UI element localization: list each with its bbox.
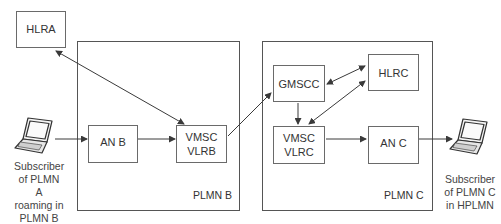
- subscriber-a-caption: Subscriber of PLMN A roaming in PLMN B: [14, 160, 64, 224]
- laptop-icon: [447, 116, 491, 158]
- vmsc-vlrb-line1: VMSC: [186, 130, 218, 144]
- caption-line: PLMN B: [14, 212, 64, 224]
- gmscc-hlrc-link: [327, 66, 365, 84]
- an-b-label: AN B: [100, 135, 126, 149]
- caption-line: roaming in: [14, 199, 64, 212]
- vmsc-vlrb-node: VMSC VLRB: [176, 125, 227, 163]
- an-c-label: AN C: [380, 136, 406, 150]
- caption-line: of PLMN A: [14, 173, 64, 199]
- vmsc-vlrc-node: VMSC VLRC: [273, 126, 325, 164]
- vmsc-vlrb-line2: VLRB: [187, 144, 216, 158]
- gmscc-node: GMSCC: [273, 65, 325, 102]
- hlrc-label: HLRC: [379, 66, 409, 80]
- caption-line: Subscriber: [14, 160, 64, 173]
- connections: [0, 0, 501, 224]
- vlrb-gmscc-link: [228, 93, 271, 136]
- subscriber-c-caption: Subscriber of PLMN C in HPLMN: [440, 173, 500, 212]
- hlra-label: HLRA: [26, 22, 55, 36]
- an-b-node: AN B: [88, 125, 138, 163]
- vmsc-vlrc-line1: VMSC: [283, 131, 315, 145]
- vmsc-vlrc-line2: VLRC: [284, 145, 313, 159]
- gmscc-label: GMSCC: [279, 77, 320, 91]
- caption-line: Subscriber: [440, 173, 500, 186]
- hlra-vlrb-link: [56, 51, 184, 124]
- caption-line: of PLMN C: [440, 186, 500, 199]
- hlra-node: HLRA: [16, 11, 66, 48]
- caption-line: in HPLMN: [440, 199, 500, 212]
- an-c-node: AN C: [368, 126, 419, 164]
- hlrc-node: HLRC: [368, 54, 419, 91]
- laptop-icon: [12, 115, 56, 157]
